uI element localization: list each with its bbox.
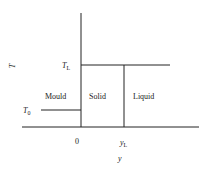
liquidus-temperature-label: TL [62,62,70,71]
liquidus-label-subscript: L [66,65,70,71]
interface-label-subscript: L [124,142,128,148]
interface-position-label: yL [120,139,127,148]
region-mould-label: Mould [45,93,66,101]
region-solid-label: Solid [89,93,106,101]
y-axis-label: T [9,64,17,68]
mould-temperature-label: T0 [23,107,30,116]
mould-temp-label-subscript: 0 [27,110,30,116]
x-axis-label: y [118,155,122,163]
diagram-lines [0,0,207,172]
region-liquid-label: Liquid [133,93,154,101]
x-origin-tick-label: 0 [75,138,79,146]
